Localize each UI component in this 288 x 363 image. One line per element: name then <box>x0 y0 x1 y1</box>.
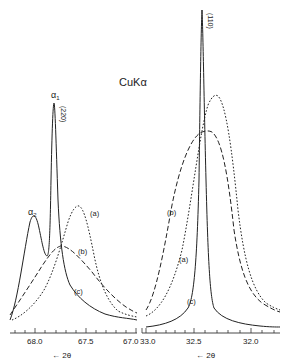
right-label-b: (b) <box>167 208 177 217</box>
right-curve-b <box>146 131 280 312</box>
left-panel: 68.0 67.5 67.0 ← 2θ α1 (220) α2 (a) (b) … <box>10 90 139 360</box>
right-label-a: (a) <box>179 255 189 264</box>
right-tick-32-0: 32.0 <box>243 337 259 346</box>
left-curve-a <box>12 206 137 320</box>
left-tick-67-0: 67.0 <box>123 337 139 346</box>
right-axis-ticks <box>146 328 274 333</box>
left-curve-b <box>10 246 137 315</box>
left-x-label: ← 2θ <box>52 351 72 360</box>
right-panel: 33.0 32.5 32.0 ← 2θ (110) (b) (a) (c) <box>140 10 280 360</box>
chart-title: CuKα <box>119 76 147 88</box>
diffraction-figure: CuKα 68.0 67.5 67.0 ← 2θ <box>0 0 288 363</box>
left-label-c: (c) <box>74 287 83 296</box>
right-tick-33-0: 33.0 <box>140 337 156 346</box>
right-x-label: ← 2θ <box>196 351 216 360</box>
left-tick-67-5: 67.5 <box>78 337 94 346</box>
left-label-a: (a) <box>90 209 100 218</box>
right-tick-32-5: 32.5 <box>186 337 202 346</box>
right-curve-c <box>146 10 280 327</box>
hkl-110-label: (110) <box>206 13 214 29</box>
left-tick-68-0: 68.0 <box>27 337 43 346</box>
left-label-b: (b) <box>78 247 88 256</box>
left-axis-ticks <box>15 328 136 333</box>
right-label-c: (c) <box>187 297 196 306</box>
hkl-220-label: (220) <box>59 106 67 122</box>
alpha1-label: α1 <box>51 90 60 101</box>
alpha2-label: α2 <box>28 207 37 218</box>
right-curve-a <box>146 95 280 316</box>
